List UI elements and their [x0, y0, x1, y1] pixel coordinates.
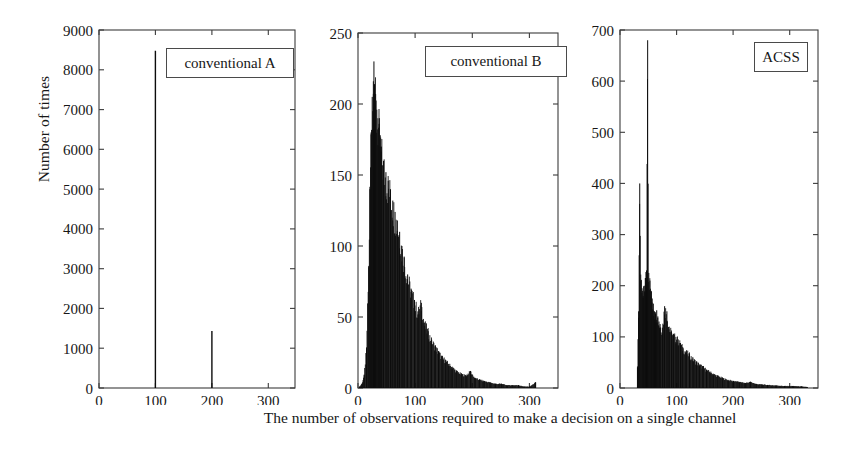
panel-b-data	[359, 61, 536, 388]
panel-a-data	[155, 51, 212, 388]
y-tick-label: 8000	[63, 62, 93, 78]
y-tick-label: 9000	[63, 23, 93, 39]
y-tick-label: 100	[330, 239, 353, 255]
x-tick-label: 0	[354, 393, 362, 405]
y-tick-label: 150	[330, 168, 353, 184]
x-tick-label: 300	[257, 393, 280, 405]
x-tick-label: 300	[518, 393, 541, 405]
y-tick-label: 0	[345, 381, 353, 397]
x-tick-label: 200	[461, 393, 484, 405]
panel-c-y-tick-labels: 0 100 200 300 400 500 600 700	[592, 23, 615, 397]
panel-conventional-b: 0 50 100 150 200 250 0 100 200 300 conve…	[316, 0, 586, 405]
panel-c-plot: 0 100 200 300 400 500 600 700 0 100 200 …	[578, 0, 860, 405]
panel-a-x-tick-labels: 0 100 200 300	[95, 393, 279, 405]
x-tick-label: 200	[722, 393, 745, 405]
y-tick-label: 250	[330, 26, 353, 42]
x-axis-title: The number of observations required to m…	[200, 409, 800, 427]
legend-label: conventional A	[184, 55, 275, 72]
panel-c-x-tick-labels: 0 100 200 300	[616, 393, 801, 405]
panel-conventional-a: 0 1000 2000 3000 4000 5000 6000 7000 800…	[0, 0, 320, 405]
x-tick-label: 0	[616, 393, 624, 405]
x-tick-label: 100	[404, 393, 427, 405]
panel-c-data	[637, 40, 808, 388]
panel-a-y-tick-labels: 0 1000 2000 3000 4000 5000 6000 7000 800…	[63, 23, 93, 397]
y-tick-label: 700	[592, 23, 615, 39]
y-tick-label: 100	[592, 329, 615, 345]
y-tick-label: 400	[592, 176, 615, 192]
y-tick-label: 2000	[63, 301, 93, 317]
y-tick-label: 50	[337, 310, 352, 326]
panel-b-x-tick-labels: 0 100 200 300	[354, 393, 540, 405]
panel-acss: 0 100 200 300 400 500 600 700 0 100 200 …	[578, 0, 860, 405]
panel-a-axes	[99, 30, 295, 388]
y-tick-label: 0	[86, 381, 94, 397]
legend-label: ACSS	[762, 49, 800, 66]
histogram-figure: Number of times The number of observatio…	[0, 0, 860, 451]
panel-b-y-tick-labels: 0 50 100 150 200 250	[330, 26, 353, 397]
y-tick-label: 7000	[63, 102, 93, 118]
y-tick-label: 200	[592, 278, 615, 294]
legend-box-conventional-a: conventional A	[166, 48, 294, 78]
y-tick-label: 1000	[63, 341, 93, 357]
x-tick-label: 300	[778, 393, 801, 405]
y-tick-label: 600	[592, 74, 615, 90]
legend-box-conventional-b: conventional B	[425, 46, 567, 77]
legend-box-acss: ACSS	[754, 42, 808, 72]
legend-label: conventional B	[450, 53, 541, 70]
x-tick-label: 200	[201, 393, 224, 405]
x-tick-label: 100	[665, 393, 688, 405]
y-tick-label: 3000	[63, 261, 93, 277]
y-tick-label: 0	[607, 381, 615, 397]
y-tick-label: 200	[330, 97, 353, 113]
y-tick-label: 6000	[63, 142, 93, 158]
y-tick-label: 4000	[63, 221, 93, 237]
y-tick-label: 5000	[63, 182, 93, 198]
panel-a-y-ticks	[99, 30, 295, 388]
y-tick-label: 500	[592, 125, 615, 141]
x-tick-label: 100	[144, 393, 167, 405]
x-tick-label: 0	[95, 393, 103, 405]
panel-a-x-ticks	[99, 30, 268, 388]
y-tick-label: 300	[592, 227, 615, 243]
